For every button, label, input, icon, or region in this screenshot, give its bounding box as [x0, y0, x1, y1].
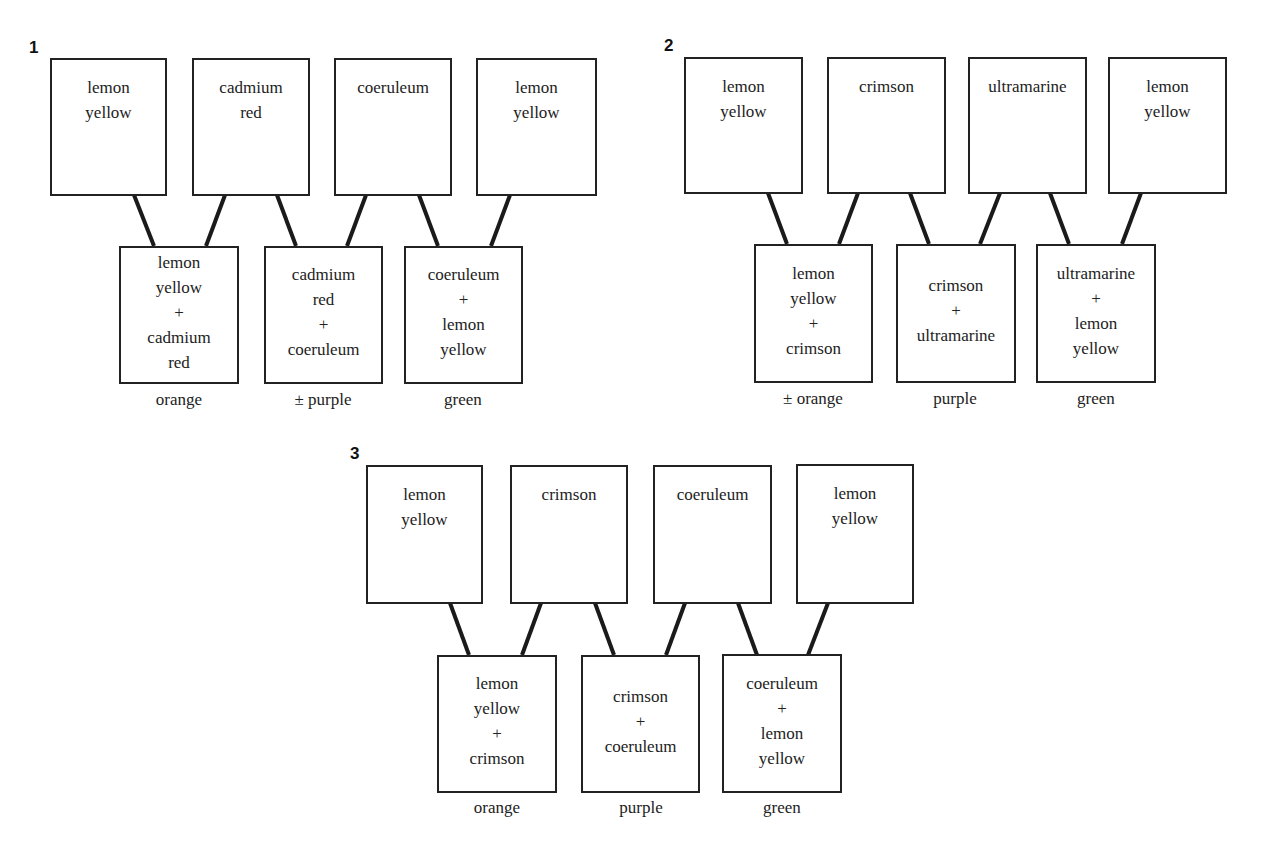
- paint-label: lemon yellow: [52, 60, 165, 125]
- mix-label: crimson + ultramarine: [917, 273, 995, 348]
- paint-box-crimson: crimson: [827, 57, 946, 194]
- result-label-green: green: [393, 390, 533, 410]
- paint-box-lemon-yellow: lemon yellow: [684, 57, 803, 194]
- paint-label: coeruleum: [655, 467, 770, 507]
- paint-box-lemon-yellow: lemon yellow: [476, 58, 597, 196]
- paint-box-coeruleum: coeruleum: [334, 58, 452, 196]
- mix-box-green: coeruleum + lemon yellow: [404, 246, 523, 384]
- mix-label: crimson + coeruleum: [605, 684, 677, 759]
- result-label-orange: orange: [109, 390, 249, 410]
- mix-box-orange: lemon yellow + crimson: [437, 655, 557, 793]
- paint-label: coeruleum: [336, 60, 450, 100]
- panel-number: 1: [29, 38, 38, 58]
- paint-label: crimson: [829, 59, 944, 99]
- paint-label: ultramarine: [970, 59, 1085, 99]
- result-label-purple: purple: [571, 798, 711, 818]
- paint-label: crimson: [512, 467, 626, 507]
- paint-box-ultramarine: ultramarine: [968, 57, 1087, 194]
- paint-box-crimson: crimson: [510, 465, 628, 604]
- mix-box-green: coeruleum + lemon yellow: [722, 654, 842, 793]
- mix-box-purple: cadmium red + coeruleum: [264, 246, 383, 384]
- result-label-orange: ± orange: [743, 389, 883, 409]
- result-label-purple: ± purple: [253, 390, 393, 410]
- paint-box-lemon-yellow: lemon yellow: [1108, 57, 1227, 194]
- paint-label: lemon yellow: [686, 59, 801, 124]
- mix-box-orange: lemon yellow + crimson: [754, 244, 873, 383]
- mix-box-purple: crimson + coeruleum: [581, 655, 700, 793]
- panel-number: 2: [664, 36, 673, 56]
- paint-box-lemon-yellow: lemon yellow: [366, 465, 483, 604]
- paint-label: lemon yellow: [798, 466, 912, 531]
- mix-label: ultramarine + lemon yellow: [1057, 261, 1135, 361]
- paint-box-lemon-yellow: lemon yellow: [796, 464, 914, 604]
- mix-box-purple: crimson + ultramarine: [896, 244, 1016, 383]
- result-label-green: green: [1026, 389, 1166, 409]
- paint-box-coeruleum: coeruleum: [653, 465, 772, 604]
- mix-box-orange: lemon yellow + cadmium red: [119, 246, 239, 384]
- panel-number: 3: [350, 444, 359, 464]
- mix-label: lemon yellow + crimson: [786, 261, 841, 361]
- paint-label: lemon yellow: [1110, 59, 1225, 124]
- mix-label: lemon yellow + crimson: [470, 671, 525, 771]
- paint-label: lemon yellow: [478, 60, 595, 125]
- paint-box-lemon-yellow: lemon yellow: [50, 58, 167, 196]
- paint-label: lemon yellow: [368, 467, 481, 532]
- result-label-purple: purple: [885, 389, 1025, 409]
- mix-label: lemon yellow + cadmium red: [147, 250, 210, 375]
- mix-label: cadmium red + coeruleum: [288, 262, 360, 362]
- result-label-orange: orange: [427, 798, 567, 818]
- mix-label: coeruleum + lemon yellow: [428, 262, 500, 362]
- mix-label: coeruleum + lemon yellow: [746, 671, 818, 771]
- mix-box-green: ultramarine + lemon yellow: [1036, 244, 1156, 383]
- result-label-green: green: [712, 798, 852, 818]
- paint-box-cadmium-red: cadmium red: [192, 58, 310, 196]
- paint-label: cadmium red: [194, 60, 308, 125]
